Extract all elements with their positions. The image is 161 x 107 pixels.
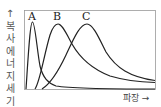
x-axis-label: 파장 → (123, 91, 149, 104)
label-a: A (28, 10, 36, 23)
curve-b (35, 24, 155, 89)
label-b: B (53, 10, 61, 23)
curve-c (42, 24, 155, 89)
label-c: C (82, 10, 90, 23)
